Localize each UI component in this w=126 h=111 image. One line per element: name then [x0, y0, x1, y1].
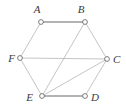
graph-node-b [83, 20, 88, 25]
graph-node-label-e: E [25, 91, 33, 103]
graph-edge-a-f [20, 22, 41, 58]
graph-figure: ABCDEF [0, 0, 126, 111]
label-layer: ABCDEF [7, 3, 121, 103]
graph-edge-b-c [85, 22, 107, 59]
graph-node-label-a: A [33, 3, 41, 15]
graph-node-d [83, 94, 88, 99]
graph-node-e [40, 94, 45, 99]
graph-node-label-d: D [90, 91, 99, 103]
edge-layer [20, 22, 107, 96]
graph-node-label-f: F [7, 52, 15, 64]
graph-canvas: ABCDEF [0, 0, 126, 111]
graph-edge-f-c [20, 58, 107, 59]
graph-node-a [39, 20, 44, 25]
graph-node-f [18, 56, 23, 61]
graph-node-label-b: B [78, 3, 85, 15]
graph-node-c [105, 57, 110, 62]
graph-node-label-c: C [113, 53, 121, 65]
